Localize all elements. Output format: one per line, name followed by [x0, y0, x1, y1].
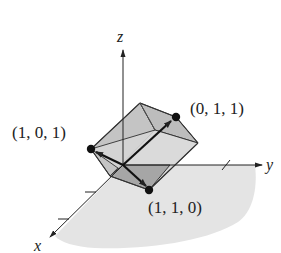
- point-101-dot: [87, 145, 95, 153]
- point-011-dot: [172, 113, 180, 121]
- x-axis-label: x: [33, 237, 41, 253]
- z-axis-label: z: [116, 28, 124, 45]
- point-011-label: (0, 1, 1): [190, 99, 244, 118]
- point-101-label: (1, 0, 1): [12, 123, 66, 142]
- parallelepiped-diagram: z y x (1, 0, 1) (0, 1, 1) (1, 1, 0): [0, 0, 281, 253]
- point-110-dot: [145, 186, 153, 194]
- point-110-label: (1, 1, 0): [148, 198, 202, 217]
- diagram-canvas: z y x (1, 0, 1) (0, 1, 1) (1, 1, 0): [0, 0, 281, 253]
- y-axis-label: y: [264, 156, 274, 174]
